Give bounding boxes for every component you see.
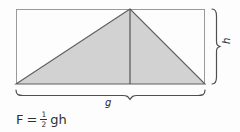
base-label: g xyxy=(105,98,111,108)
formula-equals: = xyxy=(26,113,37,126)
fraction-denominator: 2 xyxy=(40,121,47,129)
height-brace xyxy=(212,9,220,84)
area-formula: F = 1 2 gh xyxy=(16,111,67,128)
shaded-triangle xyxy=(16,9,205,84)
formula-rhs: gh xyxy=(50,113,67,126)
figure-canvas: g h F = 1 2 gh xyxy=(0,0,240,132)
formula-fraction: 1 2 xyxy=(40,111,47,128)
fraction-numerator: 1 xyxy=(40,111,47,119)
formula-lhs: F xyxy=(16,113,23,126)
height-label: h xyxy=(222,38,232,44)
